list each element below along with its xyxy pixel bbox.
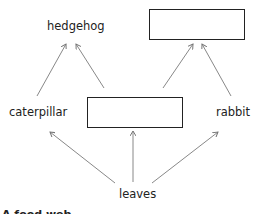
arrow-rabbit-to-top xyxy=(202,44,231,96)
blank-box-middle[interactable] xyxy=(87,97,183,128)
arrow-leaves-to-rabbit xyxy=(152,132,218,183)
node-hedgehog: hedgehog xyxy=(47,19,105,33)
node-leaves: leaves xyxy=(119,187,156,201)
arrow-caterpillar-to-hedgehog xyxy=(37,44,66,96)
arrow-middle-to-top xyxy=(163,44,193,88)
node-caterpillar: caterpillar xyxy=(9,105,67,119)
node-rabbit: rabbit xyxy=(216,105,250,119)
arrow-leaves-to-caterpillar xyxy=(50,132,115,183)
arrow-middle-to-hedgehog xyxy=(76,44,104,88)
blank-box-top[interactable] xyxy=(149,9,245,40)
clipped-caption: A food web xyxy=(2,208,71,214)
